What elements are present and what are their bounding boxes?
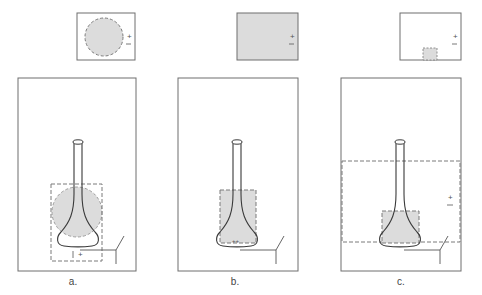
inset-circle-region	[85, 18, 123, 56]
panel-a: + +	[18, 13, 136, 271]
inset-b: +	[237, 13, 298, 60]
diagram-canvas: + + + ++ +	[0, 0, 482, 295]
panel-label-a: a.	[58, 276, 88, 287]
plus-sign: +	[127, 32, 132, 41]
plus-sign: +	[453, 32, 458, 41]
frame-a	[18, 78, 136, 271]
gaussian-box-b	[220, 190, 256, 243]
panel-label-b: b.	[220, 276, 250, 287]
panel-label-c: c.	[386, 276, 416, 287]
panel-c: + +	[341, 13, 461, 271]
inset-c: +	[400, 13, 461, 60]
inset-small-square	[423, 48, 437, 60]
region-sign-a: +	[78, 250, 83, 259]
inset-a: +	[77, 13, 135, 60]
plus-sign: +	[290, 32, 295, 41]
inset-frame	[237, 13, 298, 60]
region-plus-sign-c: +	[448, 193, 453, 202]
region-sign-b: ++	[232, 238, 240, 244]
charge-region-circle	[52, 187, 102, 237]
panel-b: + ++	[178, 13, 298, 271]
